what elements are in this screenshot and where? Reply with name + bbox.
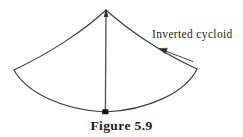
inverted-cycloid-label: Inverted cycloid: [152, 28, 233, 40]
figure-caption: Figure 5.9: [0, 118, 243, 134]
lower-left-cycloid-arc: [14, 70, 105, 112]
lower-right-cycloid-arc: [105, 69, 197, 112]
figure-page: Inverted cycloid Figure 5.9: [0, 0, 243, 137]
upper-left-cycloid-arc: [14, 10, 106, 70]
pendulum-string: [105, 11, 106, 111]
inverted-cycloid-diagram: [0, 0, 243, 137]
pendulum-bob: [102, 109, 108, 114]
